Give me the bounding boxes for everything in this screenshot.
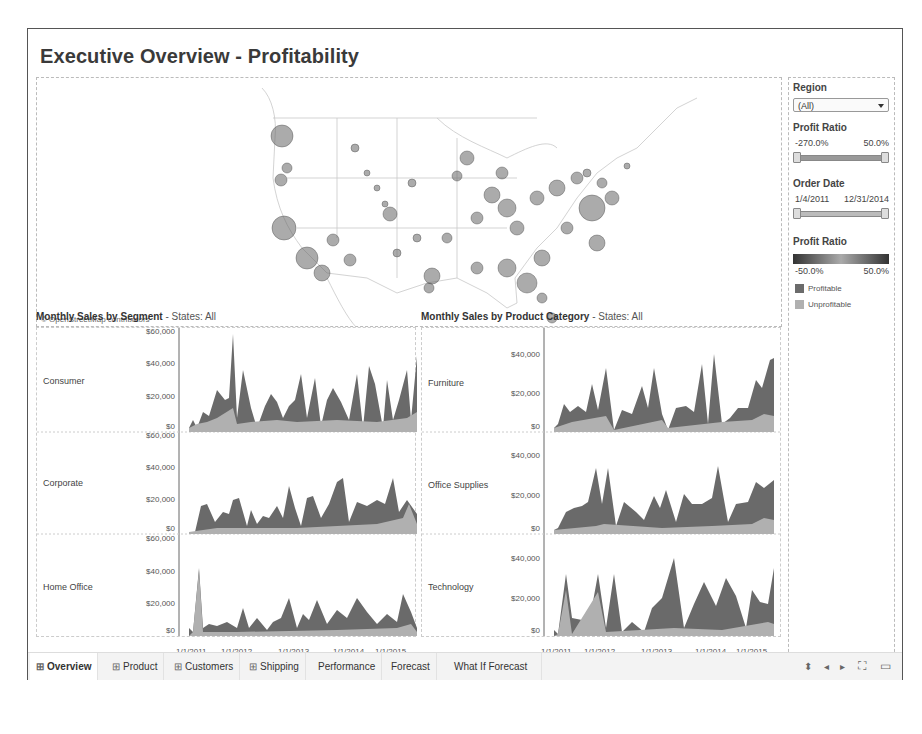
next-sheet-icon[interactable]: ▸ <box>840 653 845 680</box>
swatch-icon <box>795 300 804 309</box>
page-title: Executive Overview - Profitability <box>40 45 359 68</box>
category-chart-title: Monthly Sales by Product Category - Stat… <box>421 311 643 322</box>
segment-chart[interactable]: Consumer Corporate Home Office $60,000 $… <box>36 327 416 637</box>
segment-chart-title: Monthly Sales by Segment - States: All <box>36 311 216 322</box>
dashboard-frame: Executive Overview - Profitability <box>27 28 903 680</box>
tab-product[interactable]: ⊞Product <box>106 653 164 680</box>
slider-min-handle[interactable] <box>793 152 801 163</box>
filter-panel: Region (All) Profit Ratio -270.0% 50.0% … <box>788 77 895 667</box>
profit-ratio-filter-label: Profit Ratio <box>793 122 847 133</box>
legend-unprofitable[interactable]: Unprofitable <box>795 300 851 309</box>
chevron-down-icon <box>878 104 884 108</box>
grid-icon: ⊞ <box>112 661 120 672</box>
profit-ratio-slider[interactable] <box>793 152 889 162</box>
slider-max-handle[interactable] <box>881 152 889 163</box>
tab-overview[interactable]: ⊞Overview <box>30 653 98 680</box>
tab-customers[interactable]: ⊞Customers <box>168 653 240 680</box>
grid-icon: ⊞ <box>36 661 44 672</box>
profit-map[interactable]: © OpenStreetMap contributors <box>36 77 782 327</box>
tab-shipping[interactable]: ⊞Shipping <box>243 653 306 680</box>
map-canvas <box>37 78 782 327</box>
grid-icon: ⊞ <box>249 661 257 672</box>
row-label-home-office: Home Office <box>43 582 93 592</box>
sheet-tab-bar: ⊞Overview ⊞Product ⊞Customers ⊞Shipping … <box>28 652 902 680</box>
swatch-icon <box>795 284 804 293</box>
fullscreen-icon[interactable]: ⛶ <box>858 653 866 680</box>
tab-forecast[interactable]: Forecast <box>385 653 437 680</box>
sort-icon[interactable]: ⬍ <box>804 653 812 680</box>
tab-performance[interactable]: Performance <box>312 653 382 680</box>
row-label-technology: Technology <box>428 582 474 592</box>
segment-chart-canvas <box>37 328 417 638</box>
tab-what-if-forecast[interactable]: What If Forecast <box>440 653 542 680</box>
legend-profitable[interactable]: Profitable <box>795 284 842 293</box>
slider-max-handle[interactable] <box>881 208 889 219</box>
region-dropdown-value: (All) <box>798 101 814 111</box>
row-label-corporate: Corporate <box>43 478 83 488</box>
row-label-consumer: Consumer <box>43 376 85 386</box>
row-label-furniture: Furniture <box>428 378 464 388</box>
presentation-icon[interactable]: ▭ <box>880 653 891 680</box>
slider-min-handle[interactable] <box>793 208 801 219</box>
color-gradient-bar <box>793 254 889 264</box>
region-dropdown[interactable]: (All) <box>793 98 889 112</box>
order-date-slider[interactable] <box>793 208 889 218</box>
prev-sheet-icon[interactable]: ◂ <box>824 653 829 680</box>
grid-icon: ⊞ <box>174 661 182 672</box>
category-chart[interactable]: Furniture Office Supplies Technology $40… <box>421 327 781 637</box>
order-date-filter-label: Order Date <box>793 178 845 189</box>
row-label-office-supplies: Office Supplies <box>428 480 488 490</box>
color-legend-label: Profit Ratio <box>793 236 847 247</box>
region-filter-label: Region <box>793 82 827 93</box>
